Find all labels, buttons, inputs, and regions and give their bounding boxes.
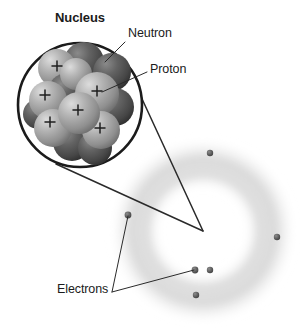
- electron-dot: [207, 150, 213, 156]
- label-proton: Proton: [150, 63, 186, 76]
- diagram-canvas: [0, 0, 301, 328]
- proton-sphere: [58, 92, 100, 134]
- label-nucleus: Nucleus: [55, 11, 105, 24]
- label-neutron: Neutron: [128, 27, 172, 40]
- electron-dot: [193, 292, 199, 298]
- label-electrons: Electrons: [57, 283, 108, 296]
- electron-dot: [274, 234, 280, 240]
- electron-dot: [207, 267, 213, 273]
- atom-structure-diagram: Nucleus Neutron Proton Electrons: [0, 0, 301, 328]
